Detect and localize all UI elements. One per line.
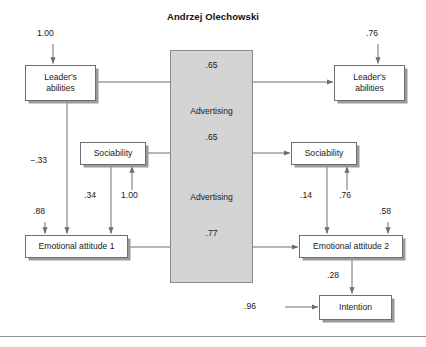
label-intention-error: .96 bbox=[244, 301, 256, 311]
node-label-line1: Leader's bbox=[353, 72, 386, 83]
node-label-line2: abilities bbox=[46, 83, 75, 94]
label-sociability-left-error: 1.00 bbox=[121, 190, 138, 200]
label-leader-right-error: .76 bbox=[366, 28, 378, 38]
node-label-line1: Emotional attitude 2 bbox=[313, 241, 389, 252]
node-intention[interactable]: Intention bbox=[319, 295, 392, 320]
node-label-line1: Sociability bbox=[305, 148, 344, 159]
node-sociability-left[interactable]: Sociability bbox=[80, 142, 146, 165]
footer-divider bbox=[0, 336, 426, 337]
figure-title: Andrzej Olechowski bbox=[0, 11, 426, 22]
node-emotional-attitude-1[interactable]: Emotional attitude 1 bbox=[25, 235, 128, 258]
node-label-line2: abilities bbox=[355, 83, 384, 94]
label-emotional1-error: .88 bbox=[33, 206, 45, 216]
panel-label-bottom-coefficient: .77 bbox=[170, 228, 253, 238]
node-leader-abilities-right[interactable]: Leader's abilities bbox=[334, 65, 405, 101]
path-diagram-figure: .65 Advertising .65 Advertising .77 Andr… bbox=[0, 0, 426, 347]
label-sociability-right-to-emotional2: .14 bbox=[300, 190, 312, 200]
panel-label-middle-coefficient: .65 bbox=[170, 132, 253, 142]
label-sociability-left-to-emotional1: .34 bbox=[84, 190, 96, 200]
node-label-line1: Sociability bbox=[94, 148, 133, 159]
label-emotional2-error: .58 bbox=[379, 206, 391, 216]
node-label-line1: Leader's bbox=[44, 72, 77, 83]
advertising-panel bbox=[170, 50, 253, 283]
label-sociability-right-error: .76 bbox=[339, 190, 351, 200]
panel-label-advertising-upper: Advertising bbox=[170, 106, 253, 116]
node-label-line1: Intention bbox=[339, 302, 372, 313]
node-emotional-attitude-2[interactable]: Emotional attitude 2 bbox=[299, 235, 403, 258]
node-leader-abilities-left[interactable]: Leader's abilities bbox=[25, 65, 96, 101]
node-sociability-right[interactable]: Sociability bbox=[291, 142, 357, 165]
panel-label-top-coefficient: .65 bbox=[170, 60, 253, 70]
panel-label-advertising-lower: Advertising bbox=[170, 192, 253, 202]
node-label-line1: Emotional attitude 1 bbox=[39, 241, 115, 252]
label-emotional2-to-intention: .28 bbox=[327, 270, 339, 280]
label-leader-to-emotional1: −.33 bbox=[30, 155, 47, 165]
label-leader-left-error: 1.00 bbox=[37, 28, 54, 38]
